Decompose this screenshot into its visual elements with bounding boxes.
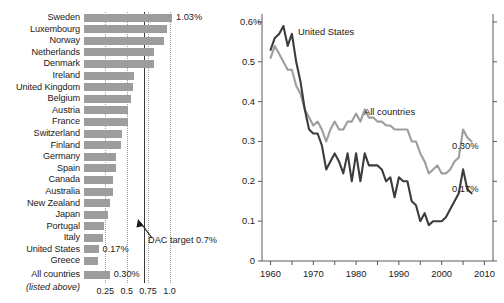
- bar-label: Belgium: [0, 93, 80, 105]
- bar-fill: [84, 141, 121, 149]
- bar-label: United Kingdom: [0, 82, 80, 94]
- bar-track: [84, 209, 240, 221]
- bar-label: Norway: [0, 35, 80, 47]
- bar-label: Sweden: [0, 12, 80, 24]
- dac-target-annotation: DAC target 0.7%: [148, 235, 217, 246]
- bar-row: All countries0.30%: [0, 269, 240, 281]
- bar-track: [84, 174, 240, 186]
- bar-fill: [84, 48, 154, 56]
- bar-row: Austria: [0, 105, 240, 117]
- bar-fill: [84, 188, 113, 196]
- bar-row: Netherlands: [0, 47, 240, 59]
- x-axis-tick-label: 1960: [251, 269, 291, 279]
- bar-row: Switzerland: [0, 128, 240, 140]
- line-chart-svg: [240, 0, 504, 303]
- bar-track: [84, 128, 240, 140]
- bar-row: Germany: [0, 151, 240, 163]
- bar-row: Belgium: [0, 93, 240, 105]
- bar-label: Finland: [0, 140, 80, 152]
- line-chart-panel: 00.10.20.30.40.50.6% 1960197019801990200…: [240, 0, 504, 303]
- series-line-united-states: [271, 26, 472, 225]
- bar-fill: [84, 222, 104, 230]
- bar-value-label: 0.30%: [114, 269, 140, 281]
- bar-fill: [84, 60, 154, 68]
- bar-fill: [84, 271, 110, 279]
- bar-fill: [84, 245, 99, 253]
- bar-label: Greece: [0, 255, 80, 267]
- x-tick-marks: [271, 261, 485, 265]
- end-label-all-countries: 0.30%: [452, 141, 479, 151]
- bar-fill: [84, 118, 128, 126]
- bar-fill: [84, 83, 133, 91]
- series-label-united-states: United States: [298, 27, 354, 37]
- bar-fill: [84, 153, 116, 161]
- bar-fill: [84, 257, 98, 265]
- bar-row: Sweden1.03%: [0, 12, 240, 24]
- bar-row: United Kingdom: [0, 82, 240, 94]
- bar-label: United States: [0, 244, 80, 256]
- bar-fill: [84, 211, 108, 219]
- bar-fill: [84, 234, 103, 242]
- bar-label: Germany: [0, 151, 80, 163]
- bar-track: [84, 93, 240, 105]
- bar-track: [84, 140, 240, 152]
- bar-label: Ireland: [0, 70, 80, 82]
- bar-row: Ireland: [0, 70, 240, 82]
- bar-fill: [84, 72, 134, 80]
- y-axis-tick-label: 0.1: [240, 216, 255, 226]
- bar-track: [84, 269, 240, 281]
- bar-fill: [84, 25, 167, 33]
- bar-track: [84, 198, 240, 210]
- bar-track: [84, 186, 240, 198]
- bar-label: New Zealand: [0, 198, 80, 210]
- bar-track: [84, 221, 240, 233]
- bar-label: Switzerland: [0, 128, 80, 140]
- bar-fill: [84, 106, 128, 114]
- bar-chart-panel: Sweden1.03%LuxembourgNorwayNetherlandsDe…: [0, 0, 240, 303]
- bar-row: Portugal: [0, 221, 240, 233]
- bar-label: Luxembourg: [0, 24, 80, 36]
- bar-fill: [84, 14, 172, 22]
- bar-label: Netherlands: [0, 47, 80, 59]
- bar-label: Australia: [0, 186, 80, 198]
- bar-row: Canada: [0, 174, 240, 186]
- bar-label: Spain: [0, 163, 80, 175]
- bar-row: Luxembourg: [0, 24, 240, 36]
- bar-fill: [84, 164, 116, 172]
- y-axis-tick-label: 0.6%: [240, 17, 255, 27]
- bar-label: Italy: [0, 232, 80, 244]
- bar-label: Portugal: [0, 221, 80, 233]
- bar-fill: [84, 199, 110, 207]
- bar-row: Norway: [0, 35, 240, 47]
- bar-value-label: 1.03%: [176, 12, 202, 24]
- bar-track: [84, 105, 240, 117]
- bar-row: Japan: [0, 209, 240, 221]
- bar-track: [84, 255, 240, 267]
- bar-track: [84, 24, 240, 36]
- bar-row: Denmark: [0, 58, 240, 70]
- bar-track: [84, 47, 240, 59]
- bar-footnote: (listed above): [0, 282, 80, 293]
- bar-label: Denmark: [0, 58, 80, 70]
- bar-track: [84, 12, 240, 24]
- bar-label: Austria: [0, 105, 80, 117]
- bar-row: Finland: [0, 140, 240, 152]
- bar-fill: [84, 130, 122, 138]
- bar-track: [84, 58, 240, 70]
- bar-fill: [84, 37, 164, 45]
- x-axis-tick-label: 1970: [293, 269, 333, 279]
- y-axis-tick-label: 0.4: [240, 97, 255, 107]
- bar-track: [84, 35, 240, 47]
- bar-row: Australia: [0, 186, 240, 198]
- y-axis-tick-label: 0.2: [240, 176, 255, 186]
- bar-row: Greece: [0, 255, 240, 267]
- bar-row: France: [0, 116, 240, 128]
- bar-track: [84, 151, 240, 163]
- x-axis-tick-label: 1990: [379, 269, 419, 279]
- bar-label: Canada: [0, 174, 80, 186]
- bar-value-label: 0.17%: [103, 244, 129, 256]
- bar-fill: [84, 176, 113, 184]
- y-axis-tick-label: 0: [240, 256, 255, 266]
- bar-track: [84, 163, 240, 175]
- bar-fill: [84, 95, 131, 103]
